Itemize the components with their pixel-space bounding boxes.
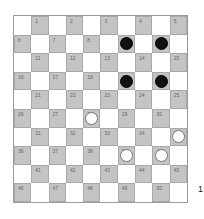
square-16[interactable]: 16 xyxy=(14,72,31,91)
square-33[interactable]: 33 xyxy=(100,128,117,147)
square-27[interactable]: 27 xyxy=(49,109,66,128)
square-number: 17 xyxy=(53,75,59,80)
square-23[interactable]: 23 xyxy=(100,90,117,109)
square-22[interactable]: 22 xyxy=(66,90,83,109)
square-number: 13 xyxy=(104,56,110,61)
square-45[interactable]: 45 xyxy=(170,165,187,184)
square-18[interactable]: 18 xyxy=(83,72,100,91)
square-8[interactable]: 8 xyxy=(83,35,100,54)
light-square xyxy=(100,72,117,91)
light-square xyxy=(100,183,117,202)
square-number: 37 xyxy=(53,149,59,154)
square-43[interactable]: 43 xyxy=(100,165,117,184)
light-square xyxy=(135,183,152,202)
square-number: 43 xyxy=(104,168,110,173)
square-31[interactable]: 31 xyxy=(31,128,48,147)
square-number: 48 xyxy=(87,186,93,191)
square-number: 29 xyxy=(122,112,128,117)
light-square xyxy=(83,90,100,109)
square-number: 49 xyxy=(122,186,128,191)
square-39[interactable]: 39 xyxy=(118,146,135,165)
light-square xyxy=(83,165,100,184)
square-number: 38 xyxy=(87,149,93,154)
light-square xyxy=(31,146,48,165)
square-37[interactable]: 37 xyxy=(49,146,66,165)
square-38[interactable]: 38 xyxy=(83,146,100,165)
square-number: 14 xyxy=(139,56,145,61)
light-square xyxy=(66,146,83,165)
square-15[interactable]: 15 xyxy=(170,53,187,72)
square-32[interactable]: 32 xyxy=(66,128,83,147)
square-10[interactable]: 10 xyxy=(152,35,169,54)
square-49[interactable]: 49 xyxy=(118,183,135,202)
white-piece-icon[interactable] xyxy=(120,149,133,162)
light-square xyxy=(170,146,187,165)
square-3[interactable]: 3 xyxy=(100,16,117,35)
light-square xyxy=(152,53,169,72)
square-6[interactable]: 6 xyxy=(14,35,31,54)
light-square xyxy=(49,128,66,147)
square-20[interactable]: 20 xyxy=(152,72,169,91)
black-piece-icon[interactable] xyxy=(155,75,168,88)
square-number: 18 xyxy=(87,75,93,80)
light-square xyxy=(135,72,152,91)
square-12[interactable]: 12 xyxy=(66,53,83,72)
square-19[interactable]: 19 xyxy=(118,72,135,91)
square-2[interactable]: 2 xyxy=(66,16,83,35)
square-40[interactable]: 40 xyxy=(152,146,169,165)
square-44[interactable]: 44 xyxy=(135,165,152,184)
light-square xyxy=(118,165,135,184)
square-13[interactable]: 13 xyxy=(100,53,117,72)
square-36[interactable]: 36 xyxy=(14,146,31,165)
square-41[interactable]: 41 xyxy=(31,165,48,184)
square-46[interactable]: 46 xyxy=(14,183,31,202)
light-square xyxy=(152,90,169,109)
square-5[interactable]: 5 xyxy=(170,16,187,35)
light-square xyxy=(66,183,83,202)
light-square xyxy=(49,53,66,72)
light-square xyxy=(170,183,187,202)
square-1[interactable]: 1 xyxy=(31,16,48,35)
square-9[interactable]: 9 xyxy=(118,35,135,54)
square-4[interactable]: 4 xyxy=(135,16,152,35)
square-14[interactable]: 14 xyxy=(135,53,152,72)
square-number: 7 xyxy=(53,38,56,43)
light-square xyxy=(152,16,169,35)
square-34[interactable]: 34 xyxy=(135,128,152,147)
light-square xyxy=(31,72,48,91)
square-50[interactable]: 50 xyxy=(152,183,169,202)
square-48[interactable]: 48 xyxy=(83,183,100,202)
square-24[interactable]: 24 xyxy=(135,90,152,109)
square-number: 26 xyxy=(18,112,24,117)
black-piece-icon[interactable] xyxy=(120,37,133,50)
square-number: 42 xyxy=(70,168,76,173)
square-26[interactable]: 26 xyxy=(14,109,31,128)
light-square xyxy=(83,16,100,35)
black-piece-icon[interactable] xyxy=(155,37,168,50)
square-number: 36 xyxy=(18,149,24,154)
light-square xyxy=(31,183,48,202)
square-11[interactable]: 11 xyxy=(31,53,48,72)
square-25[interactable]: 25 xyxy=(170,90,187,109)
light-square xyxy=(14,128,31,147)
white-piece-icon[interactable] xyxy=(172,130,185,143)
square-42[interactable]: 42 xyxy=(66,165,83,184)
square-number: 50 xyxy=(156,186,162,191)
light-square xyxy=(66,72,83,91)
square-47[interactable]: 47 xyxy=(49,183,66,202)
white-piece-icon[interactable] xyxy=(85,112,98,125)
square-30[interactable]: 30 xyxy=(152,109,169,128)
square-number: 6 xyxy=(18,38,21,43)
square-number: 11 xyxy=(35,56,40,61)
square-29[interactable]: 29 xyxy=(118,109,135,128)
square-7[interactable]: 7 xyxy=(49,35,66,54)
white-piece-icon[interactable] xyxy=(155,149,168,162)
square-number: 4 xyxy=(139,19,142,24)
square-17[interactable]: 17 xyxy=(49,72,66,91)
square-35[interactable]: 35 xyxy=(170,128,187,147)
square-28[interactable]: 28 xyxy=(83,109,100,128)
black-piece-icon[interactable] xyxy=(120,75,133,88)
light-square xyxy=(14,165,31,184)
square-21[interactable]: 21 xyxy=(31,90,48,109)
light-square xyxy=(49,90,66,109)
